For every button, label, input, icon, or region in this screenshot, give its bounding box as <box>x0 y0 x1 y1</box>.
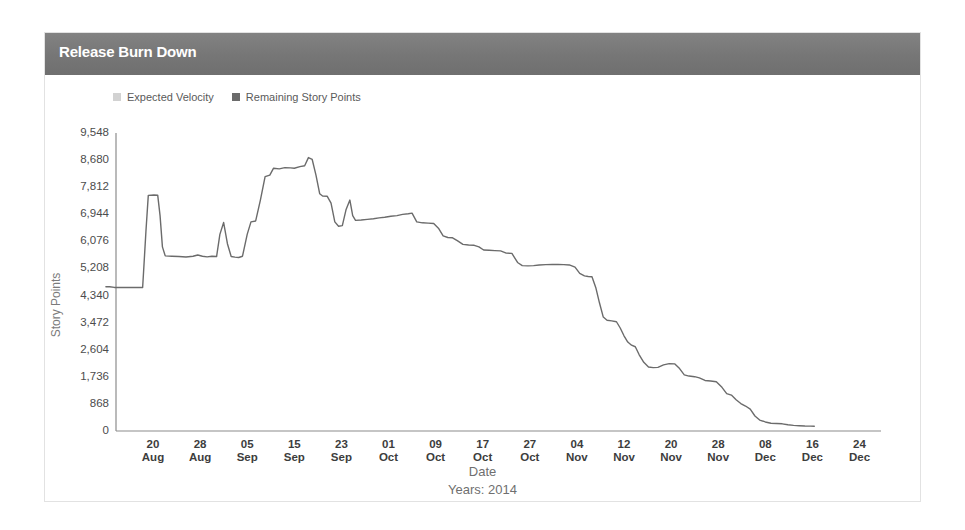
x-tick-day: 23 <box>319 438 363 451</box>
y-axis-tick-label: 6,076 <box>53 235 109 247</box>
x-axis-tick-label: 17Oct <box>461 438 505 464</box>
release-burn-down-panel: Release Burn Down Expected Velocity Rema… <box>44 32 921 502</box>
x-axis-tick-label: 04Nov <box>555 438 599 464</box>
x-tick-day: 17 <box>461 438 505 451</box>
panel-body: Expected Velocity Remaining Story Points… <box>45 75 920 501</box>
x-axis-tick-label: 09Oct <box>414 438 458 464</box>
x-axis-tick-label: 15Sep <box>272 438 316 464</box>
x-axis-tick-label: 20Aug <box>131 438 175 464</box>
x-axis-tick-label: 23Sep <box>319 438 363 464</box>
x-tick-day: 04 <box>555 438 599 451</box>
chart-plot-area: 08681,7362,6043,4724,3405,2086,0766,9447… <box>45 75 920 501</box>
x-tick-day: 24 <box>838 438 882 451</box>
panel-header: Release Burn Down <box>45 33 920 75</box>
x-tick-day: 01 <box>367 438 411 451</box>
x-axis-tick-label: 08Dec <box>743 438 787 464</box>
page-title: Release Burn Down <box>59 43 196 60</box>
x-axis-tick-label: 28Aug <box>178 438 222 464</box>
x-tick-day: 15 <box>272 438 316 451</box>
x-axis-tick-label: 20Nov <box>649 438 693 464</box>
x-axis-title-years: Years: 2014 <box>45 481 920 499</box>
x-axis-title-main: Date <box>469 464 496 479</box>
x-tick-day: 28 <box>696 438 740 451</box>
x-tick-day: 08 <box>743 438 787 451</box>
x-axis-title: Date Years: 2014 <box>45 463 920 499</box>
x-axis-tick-label: 24Dec <box>838 438 882 464</box>
y-axis-tick-label: 0 <box>53 425 109 437</box>
x-tick-day: 12 <box>602 438 646 451</box>
y-axis-tick-label: 1,736 <box>53 371 109 383</box>
x-axis-tick-label: 27Oct <box>508 438 552 464</box>
remaining-story-points-line <box>106 158 814 427</box>
x-tick-day: 20 <box>649 438 693 451</box>
x-tick-day: 27 <box>508 438 552 451</box>
y-axis-tick-label: 9,548 <box>53 127 109 139</box>
x-tick-day: 09 <box>414 438 458 451</box>
x-axis-tick-label: 12Nov <box>602 438 646 464</box>
y-axis-tick-label: 868 <box>53 398 109 410</box>
x-tick-day: 05 <box>225 438 269 451</box>
x-tick-day: 28 <box>178 438 222 451</box>
y-axis-tick-label: 6,944 <box>53 208 109 220</box>
x-tick-day: 16 <box>790 438 834 451</box>
x-axis-tick-label: 01Oct <box>367 438 411 464</box>
x-tick-day: 20 <box>131 438 175 451</box>
y-axis-tick-label: 7,812 <box>53 181 109 193</box>
y-axis-tick-label: 8,680 <box>53 154 109 166</box>
x-axis-tick-label: 28Nov <box>696 438 740 464</box>
x-axis-tick-label: 05Sep <box>225 438 269 464</box>
chart-axes <box>116 133 881 431</box>
y-axis-title: Story Points <box>49 250 63 360</box>
x-axis-tick-label: 16Dec <box>790 438 834 464</box>
